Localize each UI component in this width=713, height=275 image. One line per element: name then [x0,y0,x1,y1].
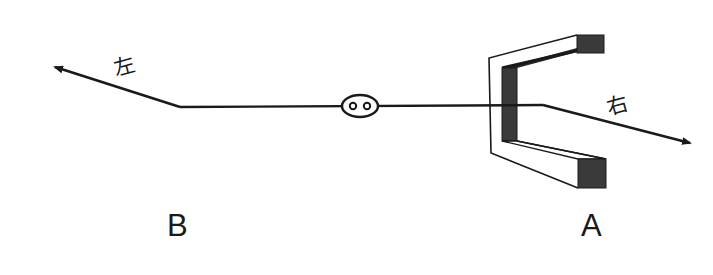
diagram-canvas [0,0,713,275]
magnet-bottom-pole [578,159,606,188]
point-b-label: B [167,210,188,241]
point-a-label: A [581,210,602,241]
magnet-top-pole [577,35,604,53]
horseshoe-magnet [489,35,606,188]
wire-loop [342,95,378,117]
